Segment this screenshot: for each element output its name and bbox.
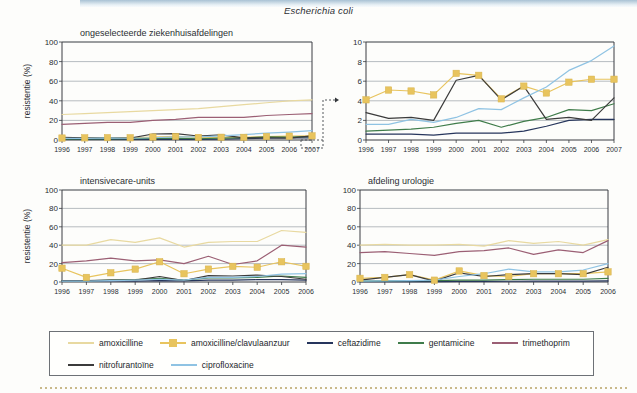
panel-title: ongeselecteerde ziekenhuisafdelingen bbox=[80, 28, 233, 38]
panel-title: intensivecare-units bbox=[80, 176, 155, 186]
svg-text:2005: 2005 bbox=[561, 146, 577, 153]
svg-text:2003: 2003 bbox=[213, 146, 229, 153]
legend-item-label: gentamicine bbox=[429, 338, 475, 348]
svg-text:40: 40 bbox=[347, 241, 356, 250]
svg-text:100: 100 bbox=[343, 186, 357, 195]
svg-text:1996: 1996 bbox=[358, 146, 374, 153]
svg-text:40: 40 bbox=[49, 241, 58, 250]
svg-text:2001: 2001 bbox=[168, 146, 184, 153]
chart-panel-ongeselecteerde-ziekenhuisafdelingen: ongeselecteerde ziekenhuisafdelingen 020… bbox=[20, 28, 320, 168]
svg-text:2004: 2004 bbox=[249, 288, 265, 295]
svg-text:2006: 2006 bbox=[298, 288, 314, 295]
svg-text:2: 2 bbox=[358, 116, 363, 125]
svg-text:2000: 2000 bbox=[152, 288, 168, 295]
svg-text:40: 40 bbox=[49, 97, 58, 106]
svg-text:1997: 1997 bbox=[377, 288, 393, 295]
svg-text:2002: 2002 bbox=[191, 146, 207, 153]
legend-item-amoxicilline[interactable]: amoxicilline bbox=[68, 338, 143, 348]
svg-text:1997: 1997 bbox=[77, 146, 93, 153]
legend-row: nitrofurantoïneciprofloxacine bbox=[50, 354, 593, 376]
legend-row: amoxicillineamoxicilline/clavulaanzuurce… bbox=[50, 332, 593, 354]
svg-text:2004: 2004 bbox=[236, 146, 252, 153]
svg-text:1998: 1998 bbox=[103, 288, 119, 295]
svg-text:10: 10 bbox=[353, 38, 362, 47]
svg-text:2006: 2006 bbox=[600, 288, 616, 295]
svg-text:60: 60 bbox=[347, 223, 356, 232]
panel-title: afdeling urologie bbox=[368, 176, 434, 186]
svg-text:6: 6 bbox=[358, 77, 363, 86]
svg-text:20: 20 bbox=[49, 116, 58, 125]
svg-text:2002: 2002 bbox=[493, 146, 509, 153]
svg-text:20: 20 bbox=[347, 260, 356, 269]
chart-panel-zoom-detail: 0246810199619971998199920002001200220032… bbox=[336, 28, 632, 168]
svg-text:1999: 1999 bbox=[127, 288, 143, 295]
legend-swatch-icon bbox=[307, 338, 333, 348]
legend-item-nitrofuranto-ne[interactable]: nitrofurantoïne bbox=[68, 360, 154, 370]
svg-text:80: 80 bbox=[49, 58, 58, 67]
svg-text:2003: 2003 bbox=[225, 288, 241, 295]
legend-item-ciprofloxacine[interactable]: ciprofloxacine bbox=[171, 360, 254, 370]
legend-item-label: ceftazidime bbox=[338, 338, 381, 348]
line-chart-svg: 0204060801001996199719981999200020012002… bbox=[20, 28, 320, 168]
legend-swatch-icon bbox=[171, 360, 197, 370]
svg-text:1996: 1996 bbox=[352, 288, 368, 295]
svg-text:resistentie (%): resistentie (%) bbox=[22, 64, 32, 118]
svg-text:2005: 2005 bbox=[575, 288, 591, 295]
legend-item-amoxicilline-clavulaanzuur[interactable]: amoxicilline/clavulaanzuur bbox=[160, 338, 290, 348]
legend: amoxicillineamoxicilline/clavulaanzuurce… bbox=[49, 331, 594, 376]
svg-text:2001: 2001 bbox=[176, 288, 192, 295]
legend-item-label: ciprofloxacine bbox=[202, 360, 254, 370]
figure-title: Escherichia coli bbox=[0, 5, 637, 16]
svg-text:0: 0 bbox=[54, 278, 59, 287]
legend-item-ceftazidime[interactable]: ceftazidime bbox=[307, 338, 381, 348]
svg-text:1997: 1997 bbox=[79, 288, 95, 295]
svg-text:2004: 2004 bbox=[551, 288, 567, 295]
line-chart-svg: 0204060801001996199719981999200020012002… bbox=[20, 176, 320, 304]
svg-text:20: 20 bbox=[49, 260, 58, 269]
svg-text:0: 0 bbox=[358, 136, 363, 145]
legend-swatch-icon bbox=[398, 338, 424, 348]
line-chart-svg: 0204060801001996199719981999200020012002… bbox=[330, 176, 630, 304]
legend-item-gentamicine[interactable]: gentamicine bbox=[398, 338, 475, 348]
legend-item-trimethoprim[interactable]: trimethoprim bbox=[492, 338, 570, 348]
bottom-dotted-rule bbox=[40, 387, 630, 389]
svg-text:2006: 2006 bbox=[584, 146, 600, 153]
svg-text:2002: 2002 bbox=[201, 288, 217, 295]
legend-swatch-icon bbox=[68, 360, 94, 370]
svg-text:2005: 2005 bbox=[259, 146, 275, 153]
legend-item-label: nitrofurantoïne bbox=[99, 360, 154, 370]
svg-text:60: 60 bbox=[49, 77, 58, 86]
svg-text:100: 100 bbox=[45, 186, 59, 195]
legend-item-label: trimethoprim bbox=[523, 338, 570, 348]
svg-text:80: 80 bbox=[347, 204, 356, 213]
svg-text:60: 60 bbox=[49, 223, 58, 232]
chart-panel-afdeling-urologie: afdeling urologie 0204060801001996199719… bbox=[330, 176, 630, 304]
svg-text:2003: 2003 bbox=[516, 146, 532, 153]
svg-text:2000: 2000 bbox=[145, 146, 161, 153]
svg-text:2006: 2006 bbox=[281, 146, 297, 153]
svg-text:100: 100 bbox=[45, 38, 59, 47]
svg-text:1996: 1996 bbox=[54, 288, 70, 295]
svg-text:1996: 1996 bbox=[54, 146, 70, 153]
dashed-callout-connector bbox=[299, 96, 339, 152]
legend-item-label: amoxicilline bbox=[99, 338, 143, 348]
svg-text:2001: 2001 bbox=[471, 146, 487, 153]
svg-text:2007: 2007 bbox=[606, 146, 622, 153]
svg-text:1999: 1999 bbox=[427, 288, 443, 295]
svg-text:8: 8 bbox=[358, 58, 363, 67]
chart-panel-intensivecare-units: intensivecare-units 02040608010019961997… bbox=[20, 176, 320, 304]
svg-text:1998: 1998 bbox=[403, 146, 419, 153]
line-chart-svg: 0246810199619971998199920002001200220032… bbox=[336, 28, 632, 168]
svg-text:1997: 1997 bbox=[381, 146, 397, 153]
svg-text:80: 80 bbox=[49, 204, 58, 213]
legend-swatch-icon bbox=[492, 338, 518, 348]
svg-text:1998: 1998 bbox=[402, 288, 418, 295]
svg-text:2000: 2000 bbox=[448, 146, 464, 153]
svg-text:4: 4 bbox=[358, 97, 363, 106]
svg-text:1999: 1999 bbox=[122, 146, 138, 153]
svg-text:2000: 2000 bbox=[451, 288, 467, 295]
svg-text:2004: 2004 bbox=[539, 146, 555, 153]
svg-text:1999: 1999 bbox=[426, 146, 442, 153]
svg-text:2002: 2002 bbox=[501, 288, 517, 295]
legend-swatch-icon bbox=[160, 338, 186, 348]
